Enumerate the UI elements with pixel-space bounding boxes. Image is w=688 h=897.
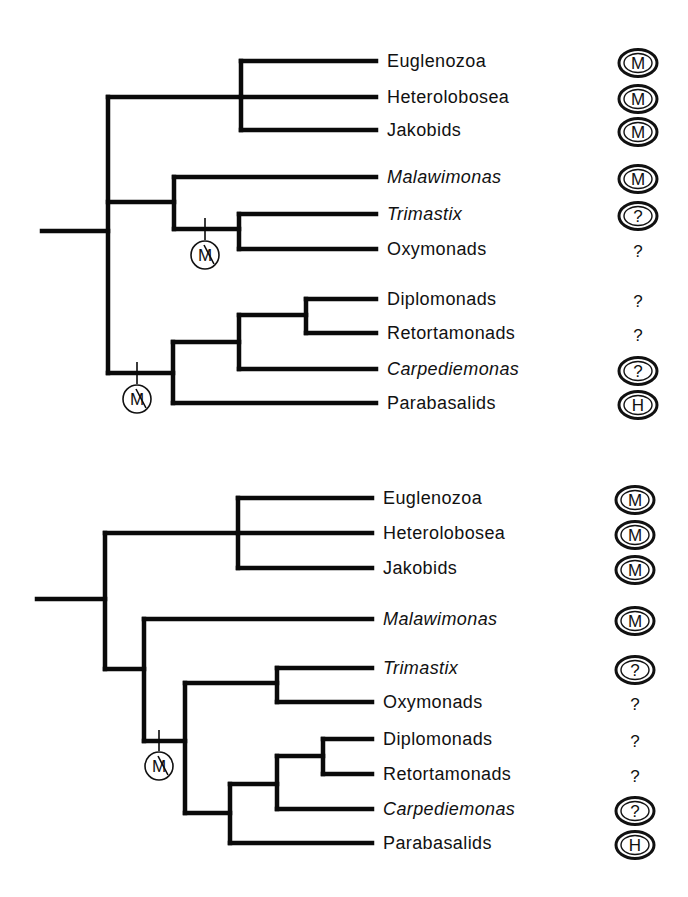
mitochondrion-icon: M (619, 50, 657, 77)
status-glyph: M (628, 612, 642, 631)
taxon-label: Heterolobosea (387, 87, 510, 107)
mitochondrion-icon: M (616, 487, 654, 514)
taxon-retortamonads: Retortamonads? (387, 323, 643, 345)
mitochondrion-icon: M (619, 86, 657, 113)
status-glyph: M (628, 526, 642, 545)
taxon-trimastix: Trimastix? (383, 657, 654, 684)
branches (42, 61, 376, 403)
taxon-label: Heterolobosea (383, 523, 506, 543)
unknown-status-icon: ? (633, 242, 642, 261)
taxon-label: Jakobids (387, 120, 461, 140)
taxon-label: Carpediemonas (383, 799, 515, 819)
taxon-label: Retortamonads (383, 764, 511, 784)
unknown-organelle-icon: ? (619, 358, 657, 385)
unknown-status-icon: ? (633, 292, 642, 311)
taxon-label: Diplomonads (383, 729, 492, 749)
taxon-label: Carpediemonas (387, 359, 519, 379)
branches (37, 498, 372, 843)
taxon-diplomonads: Diplomonads? (387, 289, 643, 311)
status-glyph: H (629, 836, 641, 855)
taxon-malawimonas: MalawimonasM (387, 166, 657, 193)
taxon-diplomonads: Diplomonads? (383, 729, 640, 751)
status-glyph: M (628, 561, 642, 580)
taxon-carpediemonas: Carpediemonas? (383, 798, 654, 825)
unknown-status-icon: ? (633, 326, 642, 345)
taxon-label: Oxymonads (383, 692, 483, 712)
taxon-label: Parabasalids (387, 393, 496, 413)
taxon-label: Trimastix (387, 204, 463, 224)
mitochondrion-icon: M (616, 557, 654, 584)
taxon-jakobids: JakobidsM (383, 557, 654, 584)
taxon-label: Malawimonas (387, 167, 501, 187)
status-glyph: ? (633, 207, 642, 226)
unknown-organelle-icon: ? (616, 798, 654, 825)
mitochondrion-icon: M (616, 522, 654, 549)
status-glyph: M (631, 54, 645, 73)
taxon-label: Malawimonas (383, 609, 497, 629)
taxon-malawimonas: MalawimonasM (383, 608, 654, 635)
mitochondrion-icon: M (616, 608, 654, 635)
hydrogenosome-icon: H (616, 832, 654, 859)
mitochondrion-loss-icon: M (191, 218, 219, 269)
taxon-carpediemonas: Carpediemonas? (387, 358, 657, 385)
status-glyph: M (631, 90, 645, 109)
unknown-organelle-icon: ? (619, 203, 657, 230)
taxon-oxymonads: Oxymonads? (383, 692, 640, 714)
taxon-label: Oxymonads (387, 239, 487, 259)
status-glyph: ? (630, 802, 639, 821)
status-glyph: H (632, 396, 644, 415)
unknown-status-icon: ? (630, 695, 639, 714)
tree-top: MMEuglenozoaMHeteroloboseaMJakobidsMMala… (42, 50, 657, 419)
phylogeny-figure: MMEuglenozoaMHeteroloboseaMJakobidsMMala… (0, 0, 688, 897)
mitochondrion-loss-icon: M (123, 362, 151, 413)
taxon-label: Diplomonads (387, 289, 496, 309)
taxon-oxymonads: Oxymonads? (387, 239, 643, 261)
taxon-label: Euglenozoa (383, 488, 483, 508)
taxon-heterolobosea: HeteroloboseaM (383, 522, 654, 549)
unknown-organelle-icon: ? (616, 657, 654, 684)
status-glyph: ? (630, 661, 639, 680)
taxon-label: Jakobids (383, 558, 457, 578)
unknown-status-icon: ? (630, 767, 639, 786)
status-glyph: M (631, 123, 645, 142)
taxon-label: Retortamonads (387, 323, 515, 343)
tree-bottom: MEuglenozoaMHeteroloboseaMJakobidsMMalaw… (37, 487, 654, 859)
taxon-retortamonads: Retortamonads? (383, 764, 640, 786)
taxon-label: Parabasalids (383, 833, 492, 853)
unknown-status-icon: ? (630, 732, 639, 751)
mitochondrion-loss-icon: M (145, 730, 173, 780)
taxon-trimastix: Trimastix? (387, 203, 657, 230)
taxon-euglenozoa: EuglenozoaM (383, 487, 654, 514)
status-glyph: M (628, 491, 642, 510)
taxon-label: Trimastix (383, 658, 459, 678)
status-glyph: M (631, 170, 645, 189)
taxon-jakobids: JakobidsM (387, 119, 657, 146)
status-glyph: ? (633, 362, 642, 381)
taxon-heterolobosea: HeteroloboseaM (387, 86, 657, 113)
taxon-parabasalids: ParabasalidsH (383, 832, 654, 859)
mitochondrion-icon: M (619, 166, 657, 193)
taxon-label: Euglenozoa (387, 51, 487, 71)
taxon-parabasalids: ParabasalidsH (387, 392, 657, 419)
taxon-euglenozoa: EuglenozoaM (387, 50, 657, 77)
hydrogenosome-icon: H (619, 392, 657, 419)
mitochondrion-icon: M (619, 119, 657, 146)
